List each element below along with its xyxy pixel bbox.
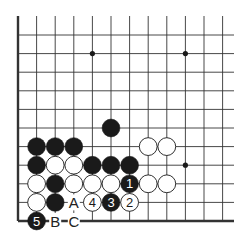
black-stone [65,138,83,156]
stone-disc [65,175,83,193]
white-stone [102,175,120,193]
star-point [183,51,188,56]
white-stone [28,175,46,193]
black-stone [46,194,64,212]
white-stone [65,156,83,174]
stone-disc [65,138,83,156]
letter-mark-a: A [69,194,79,211]
white-stone [65,175,83,193]
star-point [90,51,95,56]
stone-disc [102,175,120,193]
move-number: 5 [33,214,40,229]
letter-mark-c: C [68,213,79,230]
stone-disc [46,175,64,193]
black-stone [46,175,64,193]
move-number: 3 [107,195,114,210]
stone-disc [84,156,102,174]
black-stone-3: 3 [102,194,120,212]
stone-disc [28,138,46,156]
white-stone [139,175,157,193]
black-stone [28,156,46,174]
black-stone-5: 5 [28,212,46,230]
stone-disc [139,138,157,156]
black-stone-1: 1 [121,175,139,193]
black-stone [84,156,102,174]
white-stone-2: 2 [121,194,139,212]
stone-disc [158,138,176,156]
stone-disc [158,175,176,193]
white-stone-4: 4 [84,194,102,212]
go-board: 14325 ABC [0,0,250,242]
white-stone [28,194,46,212]
stone-disc [46,194,64,212]
black-stone [102,156,120,174]
letter-mark-b: B [50,213,60,230]
white-stone [158,175,176,193]
stone-disc [84,175,102,193]
stone-disc [28,175,46,193]
white-stone [158,138,176,156]
move-number: 2 [126,195,133,210]
black-stone [102,119,120,137]
stone-disc [102,156,120,174]
move-number: 4 [89,195,96,210]
stone-disc [121,156,139,174]
star-point [183,163,188,168]
white-stone [46,156,64,174]
white-stone [84,175,102,193]
stone-disc [46,156,64,174]
black-stone [121,156,139,174]
stone-disc [102,119,120,137]
stone-disc [65,156,83,174]
stone-disc [139,175,157,193]
move-number: 1 [126,176,133,191]
stone-disc [28,194,46,212]
black-stone [28,138,46,156]
stone-disc [28,156,46,174]
white-stone [139,138,157,156]
stone-disc [46,138,64,156]
black-stone [46,138,64,156]
